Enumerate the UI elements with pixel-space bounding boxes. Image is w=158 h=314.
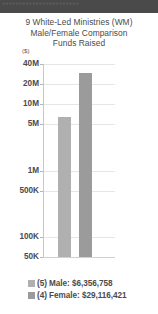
x-axis-baseline: [43, 257, 115, 258]
bar-female[interactable]: [79, 73, 92, 257]
y-axis-label: 500K: [19, 187, 39, 195]
y-axis-label: 50K: [24, 253, 39, 261]
legend-swatch-icon: [28, 292, 35, 299]
y-axis-label: 10M: [23, 100, 39, 108]
legend-label: (4) Female: $29,116,421: [37, 291, 126, 300]
legend-label: (5) Male: $6,356,758: [37, 279, 112, 288]
legend-swatch-icon: [28, 280, 35, 287]
y-axis-line: [43, 64, 44, 258]
plot-area: 40M20M10M5M1M500K100K50K: [0, 0, 158, 275]
y-axis-label: 1M: [28, 167, 39, 175]
legend-item[interactable]: (4) Female: $29,116,421: [28, 289, 158, 301]
y-axis-label: 20M: [23, 80, 39, 88]
legend-item[interactable]: (5) Male: $6,356,758: [28, 277, 158, 289]
y-axis-label: 5M: [28, 120, 39, 128]
y-gridline: [43, 64, 115, 65]
chart-legend: (5) Male: $6,356,758(4) Female: $29,116,…: [28, 277, 158, 301]
y-axis-label: 40M: [23, 60, 39, 68]
y-axis-label: 100K: [19, 233, 39, 241]
bar-male[interactable]: [58, 117, 71, 257]
chart-page: ••••••••••••••••••••••• 9 White-Led Mini…: [0, 0, 158, 314]
